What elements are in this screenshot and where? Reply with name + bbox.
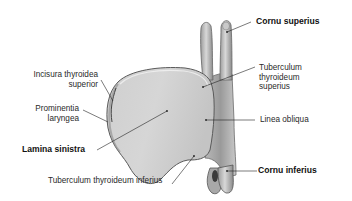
leader-incisura: [101, 80, 113, 101]
label-tuberculum-sup-line3: superius: [259, 82, 302, 92]
label-incisura-line1: Incisura thyroidea: [20, 70, 98, 80]
cornu-superius-shape: [201, 21, 232, 80]
cornu-inferius-shape: [207, 165, 233, 194]
label-incisura-thyroidea-superior: Incisura thyroidea superior: [20, 70, 98, 89]
label-cornu-superius: Cornu superius: [256, 17, 320, 27]
label-cornu-inferius: Cornu inferius: [258, 166, 317, 176]
label-prominentia-laryngea: Prominentia laryngea: [20, 104, 79, 123]
label-incisura-line2: superior: [20, 80, 98, 90]
label-lamina-sinistra: Lamina sinistra: [22, 145, 85, 155]
leader-prominentia: [83, 110, 108, 122]
label-tuberculum-sup-line2: thyroideum: [259, 73, 302, 83]
label-prominentia-line1: Prominentia: [20, 104, 79, 114]
label-linea-obliqua: Linea obliqua: [260, 115, 309, 125]
label-prominentia-line2: laryngea: [20, 114, 79, 124]
lamina-shape: [107, 68, 214, 184]
label-tuberculum-thyroideum-inferius: Tuberculum thyroideum inferius: [48, 176, 162, 186]
label-tuberculum-thyroideum-superius: Tuberculum thyroideum superius: [259, 63, 302, 92]
label-tuberculum-sup-line1: Tuberculum: [259, 63, 302, 73]
